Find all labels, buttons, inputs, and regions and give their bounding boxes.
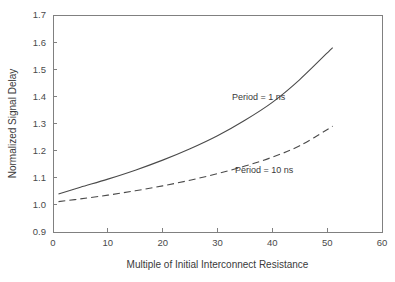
line-chart: 0.91.01.11.21.31.41.51.61.7 010203040506… xyxy=(0,0,395,282)
y-tick-label: 1.7 xyxy=(33,9,46,20)
series-annotation: Period = 1 ns xyxy=(232,92,286,102)
series-line-period-10ns xyxy=(58,126,332,201)
y-tick-label: 1.1 xyxy=(33,172,46,183)
plot-frame xyxy=(53,15,382,232)
series-annotations: Period = 1 nsPeriod = 10 ns xyxy=(232,92,294,175)
x-tick-label: 60 xyxy=(377,237,388,248)
y-tick-label: 1.5 xyxy=(33,64,46,75)
x-tick-label: 40 xyxy=(267,237,278,248)
x-axis-title: Multiple of Initial Interconnect Resista… xyxy=(127,259,309,270)
axes-frame xyxy=(53,15,382,232)
y-tick-label: 1.3 xyxy=(33,118,46,129)
x-tick-label: 10 xyxy=(103,237,114,248)
y-tick-label: 1.4 xyxy=(33,91,46,102)
x-axis-ticks: 0102030405060 xyxy=(50,228,387,248)
data-series-group xyxy=(58,48,332,202)
y-axis-title: Normalized Signal Delay xyxy=(7,69,18,179)
x-tick-label: 30 xyxy=(212,237,223,248)
x-tick-label: 0 xyxy=(50,237,55,248)
x-tick-label: 50 xyxy=(322,237,333,248)
x-tick-label: 20 xyxy=(157,237,168,248)
y-tick-label: 0.9 xyxy=(33,226,46,237)
y-tick-label: 1.0 xyxy=(33,199,46,210)
series-annotation: Period = 10 ns xyxy=(235,165,294,175)
y-tick-label: 1.6 xyxy=(33,37,46,48)
y-tick-label: 1.2 xyxy=(33,145,46,156)
chart-figure: 0.91.01.11.21.31.41.51.61.7 010203040506… xyxy=(0,0,395,282)
